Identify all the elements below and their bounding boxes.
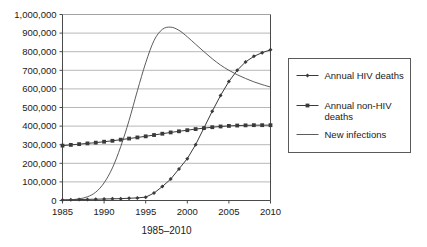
y-tick-label: 200,000 — [22, 158, 56, 169]
data-point — [210, 125, 214, 129]
x-axis-title: 1985–2010 — [141, 225, 191, 236]
data-point — [244, 123, 248, 127]
x-tick-label: 2005 — [218, 206, 239, 217]
data-point — [135, 136, 139, 140]
y-tick-label: 500,000 — [22, 102, 56, 113]
y-tick-label: 100,000 — [22, 176, 56, 187]
data-point — [194, 127, 198, 131]
legend-key-marker — [306, 104, 310, 108]
data-point — [269, 123, 273, 127]
data-point — [219, 125, 223, 129]
x-tick-label: 1990 — [94, 206, 115, 217]
legend-item-label-line2[interactable]: deaths — [325, 111, 354, 122]
data-point — [127, 137, 131, 141]
data-point — [202, 126, 206, 130]
chart-figure: 0100,000200,000300,000400,000500,000600,… — [0, 0, 427, 247]
legend-item-label[interactable]: Annual non-HIV — [325, 100, 393, 111]
data-point — [102, 140, 106, 144]
data-point — [185, 128, 189, 132]
data-point — [69, 143, 73, 147]
data-point — [235, 124, 239, 128]
data-point — [260, 123, 264, 127]
y-tick-label: 300,000 — [22, 139, 56, 150]
data-point — [111, 139, 115, 143]
data-point — [152, 133, 156, 137]
legend-item-label[interactable]: Annual HIV deaths — [325, 70, 404, 81]
chart-legend: Annual HIV deathsAnnual non-HIVdeathsNew… — [289, 59, 411, 153]
x-tick-label: 1995 — [135, 206, 156, 217]
data-point — [252, 123, 256, 127]
data-point — [86, 141, 90, 145]
y-tick-label: 400,000 — [22, 120, 56, 131]
legend-item-label[interactable]: New infections — [325, 129, 387, 140]
data-point — [94, 141, 98, 145]
data-point — [227, 124, 231, 128]
data-point — [169, 131, 173, 135]
y-tick-label: 1,000,000 — [14, 9, 56, 20]
x-tick-label: 2000 — [177, 206, 198, 217]
data-point — [61, 144, 65, 148]
data-point — [144, 134, 148, 138]
y-tick-label: 800,000 — [22, 46, 56, 57]
data-point — [160, 132, 164, 136]
y-tick-label: 600,000 — [22, 83, 56, 94]
x-tick-label: 1985 — [52, 206, 73, 217]
data-point — [177, 129, 181, 133]
y-tick-label: 700,000 — [22, 65, 56, 76]
y-tick-label: 900,000 — [22, 27, 56, 38]
data-point — [119, 138, 123, 142]
x-tick-label: 2010 — [260, 206, 281, 217]
data-point — [77, 142, 81, 146]
y-tick-label: 0 — [51, 195, 56, 206]
